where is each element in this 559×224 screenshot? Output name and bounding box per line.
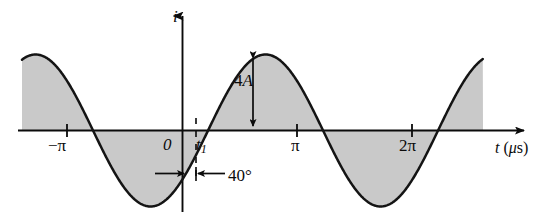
- waveform-plot: [0, 0, 559, 224]
- current-waveform-figure: i t (μs) −π 0 t1 π 2π 4A 40°: [0, 0, 559, 224]
- amplitude-label: 4A: [234, 72, 253, 89]
- y-axis-label: i: [173, 8, 178, 25]
- xtick-label-pi: π: [291, 137, 300, 154]
- origin-label: 0: [163, 136, 172, 153]
- xtick-label-neg-pi: −π: [48, 137, 66, 154]
- phase-angle-label: 40°: [228, 167, 252, 184]
- x-axis-label: t (μs): [495, 140, 528, 156]
- t1-subscript: 1: [201, 142, 207, 156]
- xtick-label-2pi: 2π: [399, 137, 416, 154]
- t1-label: t1: [196, 136, 207, 156]
